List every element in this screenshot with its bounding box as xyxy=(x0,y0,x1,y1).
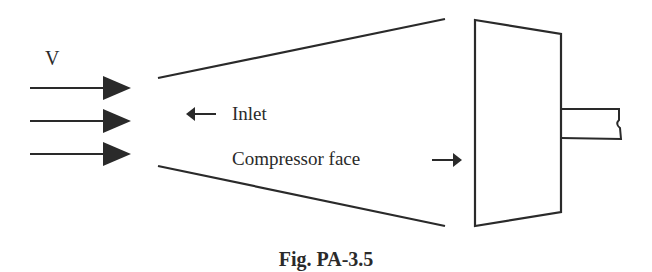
flow-arrow-1 xyxy=(30,76,131,100)
flow-arrow-2 xyxy=(30,109,131,133)
inlet-walls xyxy=(158,19,445,226)
compressor-face-label: Compressor face xyxy=(232,149,360,168)
shaft xyxy=(561,109,621,139)
compressor-face-arrow-icon xyxy=(432,153,462,167)
diagram-canvas xyxy=(0,0,652,272)
compressor xyxy=(475,20,561,226)
inlet-lower-wall xyxy=(158,166,445,226)
inlet-arrow-icon xyxy=(186,107,216,121)
flow-arrows xyxy=(30,76,131,166)
flow-arrow-3 xyxy=(30,142,131,166)
figure-caption: Fig. PA-3.5 xyxy=(0,249,652,269)
inlet-upper-wall xyxy=(158,19,445,78)
velocity-label: V xyxy=(45,48,59,68)
inlet-label: Inlet xyxy=(232,104,267,123)
